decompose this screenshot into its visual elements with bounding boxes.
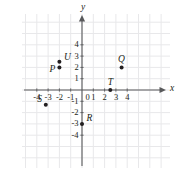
x-tick-label-neg3: -3 bbox=[45, 93, 52, 102]
point-label-u: U bbox=[64, 53, 71, 63]
y-tick-label-4: 4 bbox=[75, 40, 79, 49]
point-dot-t bbox=[108, 88, 112, 92]
y-tick-label-neg3: -3 bbox=[72, 119, 79, 128]
x-tick-label-4: 4 bbox=[125, 93, 129, 102]
point-label-t: T bbox=[108, 78, 113, 88]
point-dot-r bbox=[80, 122, 84, 126]
y-tick-label-3: 3 bbox=[75, 52, 79, 61]
point-label-r: R bbox=[87, 114, 93, 124]
x-tick-label-neg2: -2 bbox=[56, 93, 63, 102]
point-label-p: P bbox=[49, 65, 55, 75]
y-tick-label-neg4: -4 bbox=[72, 131, 79, 140]
x-tick-label-3: 3 bbox=[114, 93, 118, 102]
x-axis-label: x bbox=[170, 84, 174, 94]
y-tick-label-1: 1 bbox=[75, 74, 79, 83]
point-dot-u bbox=[57, 60, 61, 64]
y-tick-label-2: 2 bbox=[75, 63, 79, 72]
point-dot-q bbox=[120, 65, 124, 69]
x-tick-label-0: 0 bbox=[86, 93, 90, 102]
y-axis-label: y bbox=[81, 3, 85, 13]
point-label-q: Q bbox=[118, 55, 125, 65]
y-tick-label-neg2: -2 bbox=[72, 108, 79, 117]
y-tick-label-neg1: -1 bbox=[72, 97, 79, 106]
x-tick-label-1: 1 bbox=[91, 93, 95, 102]
point-dot-p bbox=[57, 65, 61, 69]
axis-lines bbox=[24, 15, 166, 166]
coordinate-plane-figure: -4-3-2-1012344321-1-2-3-4xyUPQTSR bbox=[0, 0, 184, 185]
grid-lines bbox=[22, 14, 170, 168]
point-label-s: S bbox=[37, 95, 42, 105]
point-dot-s bbox=[44, 103, 48, 107]
x-tick-label-2: 2 bbox=[103, 93, 107, 102]
